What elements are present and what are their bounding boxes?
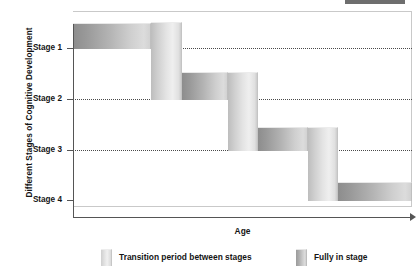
legend-swatch-fully-in-stage-icon <box>296 249 307 266</box>
bar-fully-in-stage-4 <box>338 182 412 201</box>
y-tick-stage-1 <box>67 48 74 49</box>
y-tick-label-stage-1: Stage 1 <box>16 43 62 52</box>
y-tick-stage-3 <box>67 150 74 151</box>
x-axis-line <box>73 217 412 218</box>
y-axis-line <box>73 24 74 218</box>
bar-fully-in-stage-3 <box>258 127 308 151</box>
y-tick-stage-2 <box>67 99 74 100</box>
x-axis-title: Age <box>73 226 412 236</box>
legend-label-fully-in-stage: Fully in stage <box>314 252 368 262</box>
y-tick-label-stage-2: Stage 2 <box>16 94 62 103</box>
bar-transition-3-to-4 <box>308 127 338 201</box>
chart-legend: Transition period between stages Fully i… <box>0 248 418 270</box>
legend-label-transition: Transition period between stages <box>119 252 252 262</box>
cognitive-development-stair-chart: Stage 1 Stage 2 Stage 3 Stage 4 Differen… <box>0 0 418 279</box>
y-tick-stage-4 <box>67 200 74 201</box>
bar-fully-in-stage-2 <box>182 72 228 100</box>
y-tick-label-group: Stage 1 Stage 2 Stage 3 Stage 4 <box>16 0 62 279</box>
x-axis-arrow-icon <box>410 213 416 221</box>
y-tick-label-stage-3: Stage 3 <box>16 145 62 154</box>
legend-swatch-transition-icon <box>101 249 112 266</box>
bar-transition-2-to-3 <box>228 72 258 151</box>
legend-item-fully-in-stage: Fully in stage <box>296 248 368 266</box>
legend-item-transition: Transition period between stages <box>101 248 252 266</box>
y-axis-title: Different Stages of Cognitive Developmen… <box>25 8 34 218</box>
bar-transition-1-to-2 <box>151 22 182 100</box>
top-edge-artifact <box>345 0 405 4</box>
y-tick-label-stage-4: Stage 4 <box>16 195 62 204</box>
bar-fully-in-stage-1 <box>73 23 151 49</box>
